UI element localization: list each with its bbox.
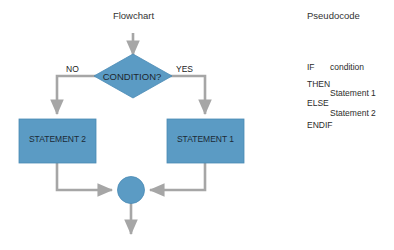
merge-circle-node xyxy=(118,177,145,204)
pseudocode-line-statement-1: Statement 1 xyxy=(330,88,376,98)
pseudocode-title: Pseudocode xyxy=(307,10,394,21)
pseudocode-listing: IF condition THEN Statement 1 ELSE State… xyxy=(307,62,394,147)
connector-yes-branch xyxy=(170,76,205,114)
statement-box-left xyxy=(19,119,96,163)
decision-diamond xyxy=(94,54,172,98)
connector-no-branch xyxy=(57,76,96,114)
pseudocode-line-statement-2: Statement 2 xyxy=(330,108,376,118)
connector-left-to-merge xyxy=(57,163,112,190)
pseudocode-line-if-keyword: IF xyxy=(307,62,315,72)
diagram-canvas: Flowchart CONDITION? NO YES STATEMENT 2 … xyxy=(0,0,394,250)
pseudocode-line-else: ELSE xyxy=(307,98,329,108)
statement-box-right xyxy=(167,119,244,163)
pseudocode-line-endif: ENDIF xyxy=(307,120,333,130)
pseudocode-panel: Pseudocode IF condition THEN Statement 1… xyxy=(307,10,394,21)
pseudocode-line-then: THEN xyxy=(307,79,330,89)
flowchart-title: Flowchart xyxy=(0,10,267,21)
connector-right-to-merge xyxy=(150,163,205,190)
pseudocode-line-if-condition: condition xyxy=(330,62,364,72)
